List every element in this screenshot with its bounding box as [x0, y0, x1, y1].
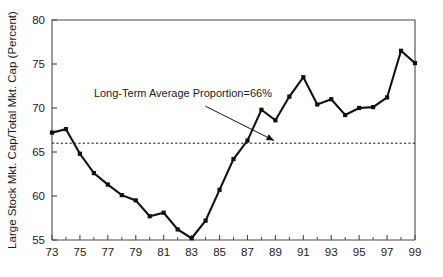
- data-point-marker: [413, 61, 417, 65]
- chart-container: 556065707580 737577798183858789919395979…: [0, 0, 443, 277]
- x-tick-label: 75: [74, 246, 87, 258]
- x-tick-label: 83: [185, 246, 198, 258]
- chart-background: [0, 0, 443, 277]
- y-tick-label: 70: [32, 102, 45, 114]
- x-tick-label: 87: [241, 246, 254, 258]
- data-point-marker: [273, 118, 277, 122]
- data-point-marker: [245, 138, 249, 142]
- x-tick-label: 91: [297, 246, 310, 258]
- data-point-marker: [92, 171, 96, 175]
- data-point-marker: [148, 214, 152, 218]
- x-tick-label: 99: [409, 246, 422, 258]
- data-point-marker: [120, 193, 124, 197]
- y-axis-title: Large Stock Mkt. Cap/Total Mkt. Cap (Per…: [6, 11, 18, 249]
- x-tick-label: 85: [213, 246, 226, 258]
- data-point-marker: [301, 75, 305, 79]
- data-point-marker: [343, 113, 347, 117]
- line-chart: 556065707580 737577798183858789919395979…: [0, 0, 443, 277]
- data-point-marker: [357, 106, 361, 110]
- y-tick-label: 65: [32, 146, 45, 158]
- data-point-marker: [176, 227, 180, 231]
- data-point-marker: [329, 97, 333, 101]
- y-tick-label: 80: [32, 14, 45, 26]
- x-tick-label: 93: [325, 246, 338, 258]
- x-tick-label: 95: [353, 246, 366, 258]
- y-tick-label: 55: [32, 234, 45, 246]
- data-point-marker: [231, 157, 235, 161]
- x-tick-label: 81: [157, 246, 170, 258]
- y-tick-label: 75: [32, 58, 45, 70]
- data-point-marker: [203, 219, 207, 223]
- data-point-marker: [315, 102, 319, 106]
- data-point-marker: [385, 95, 389, 99]
- data-point-marker: [134, 198, 138, 202]
- data-point-marker: [399, 49, 403, 53]
- data-point-marker: [78, 152, 82, 156]
- y-tick-label: 60: [32, 190, 45, 202]
- data-point-marker: [106, 182, 110, 186]
- x-tick-label: 89: [269, 246, 282, 258]
- data-point-marker: [259, 108, 263, 112]
- x-tick-label: 79: [129, 246, 142, 258]
- data-point-marker: [287, 94, 291, 98]
- data-point-marker: [64, 127, 68, 131]
- data-point-marker: [371, 105, 375, 109]
- data-point-marker: [162, 211, 166, 215]
- y-axis-title-text: Large Stock Mkt. Cap/Total Mkt. Cap (Per…: [6, 11, 18, 249]
- annotation-label: Long-Term Average Proportion=66%: [94, 87, 272, 99]
- x-tick-label: 73: [46, 246, 59, 258]
- data-point-marker: [50, 131, 54, 135]
- x-tick-label: 97: [381, 246, 394, 258]
- data-point-marker: [190, 236, 194, 240]
- x-tick-label: 77: [101, 246, 114, 258]
- data-point-marker: [217, 188, 221, 192]
